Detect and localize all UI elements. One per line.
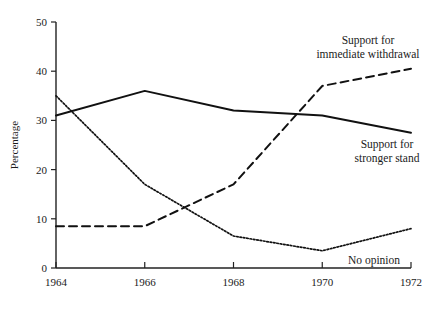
y-tick-label: 0 xyxy=(42,262,48,274)
y-tick-label: 10 xyxy=(36,213,48,225)
y-tick-label: 50 xyxy=(36,16,48,28)
x-tick-label: 1966 xyxy=(134,276,157,288)
x-tick-label: 1970 xyxy=(311,276,334,288)
y-tick-label: 20 xyxy=(36,164,48,176)
series-line-support-for-immediate-withdrawal xyxy=(56,69,411,226)
y-axis-title: Percentage xyxy=(8,121,20,169)
annotation-group: Support forimmediate withdrawalSupport f… xyxy=(316,34,419,267)
y-tick-label: 30 xyxy=(36,114,48,126)
annotation-stronger-stand: Support forstronger stand xyxy=(355,138,420,165)
annotation-line: immediate withdrawal xyxy=(316,48,419,60)
y-axis-group: 01020304050 Percentage xyxy=(8,16,56,274)
series-line-no-opinion xyxy=(56,96,411,251)
annotation-no-opinion: No opinion xyxy=(348,254,400,267)
annotation-line: stronger stand xyxy=(355,152,420,165)
y-tick-group: 01020304050 xyxy=(36,16,56,274)
x-tick-label: 1968 xyxy=(223,276,246,288)
annotation-line: Support for xyxy=(342,34,395,47)
line-chart: 01020304050 Percentage 19641966196819701… xyxy=(0,0,445,309)
x-tick-label: 1972 xyxy=(400,276,422,288)
x-tick-label: 1964 xyxy=(45,276,68,288)
chart-container: 01020304050 Percentage 19641966196819701… xyxy=(0,0,445,309)
annotation-immediate-withdrawal: Support forimmediate withdrawal xyxy=(316,34,419,60)
annotation-line: Support for xyxy=(361,138,414,151)
series-line-support-for-stronger-stand xyxy=(56,91,411,133)
y-tick-label: 40 xyxy=(36,65,48,77)
annotation-line: No opinion xyxy=(348,254,400,267)
